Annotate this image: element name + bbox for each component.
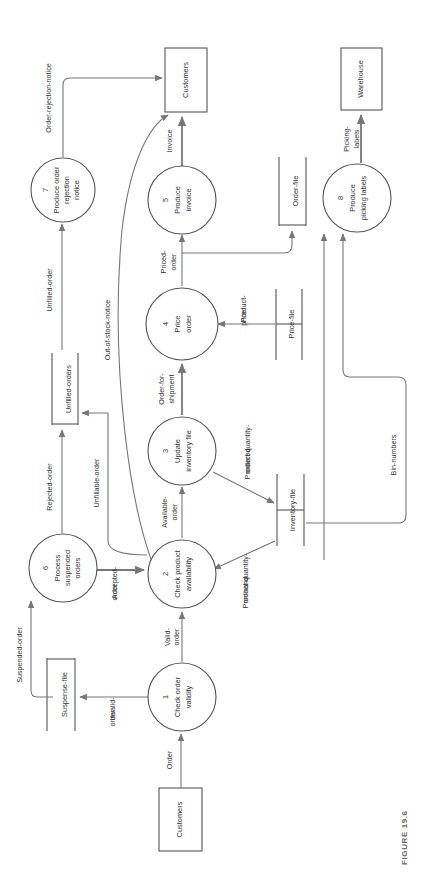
process-name-line2: suspended <box>63 550 72 586</box>
process-name-line2: rejection <box>62 176 71 204</box>
data-store-label: Price-file <box>287 310 296 339</box>
process-3: 3 Update inventory file <box>148 417 216 485</box>
flow-suspended-order <box>31 601 53 697</box>
flow-label-ofs-1: Order-for- <box>157 373 166 405</box>
process-7: 7 Produce order rejection notice <box>31 158 95 222</box>
flow-label-accepted-order-2: order <box>110 583 119 600</box>
diagram-canvas: Customers Warehouse Customers Suspense-f… <box>0 0 423 893</box>
flow-label-rejected-order: Rejected-order <box>45 463 54 511</box>
process-number: 5 <box>161 198 170 202</box>
data-store-order-file: Order-file <box>279 157 306 226</box>
external-entity-label: Customers <box>175 801 184 837</box>
flow-order-file-write <box>182 231 292 253</box>
process-name-line1: Check order <box>173 676 182 717</box>
flow-label-picking-labels-1: Picking- <box>342 126 351 152</box>
flow-label-invalid-order-2: order <box>108 709 117 726</box>
process-number: 4 <box>161 322 170 326</box>
process-name-line1: Produce <box>173 186 182 214</box>
process-name-line2: picking labels <box>359 176 368 221</box>
process-name-line2: invoice <box>184 188 193 211</box>
process-2: 2 Check product availability <box>148 540 216 608</box>
flow-label-suspended-order: Suspended-order <box>15 627 24 683</box>
flow-order-rejection-notice <box>63 78 162 157</box>
process-name-line2: inventory file <box>184 430 193 472</box>
process-name-line2: order <box>184 315 193 333</box>
process-number: 3 <box>161 449 170 453</box>
flow-label-bin-numbers: Bin-numbers <box>389 434 398 475</box>
process-5: 5 Produce invoice <box>148 166 216 234</box>
flow-label-pqord-2: ordered <box>243 449 252 474</box>
process-name-line3: notice <box>72 180 81 200</box>
flow-label-picking-labels-2: labels <box>352 129 361 148</box>
external-entity-label: Warehouse <box>356 60 365 98</box>
process-name-line2: availability <box>184 557 193 591</box>
data-store-label: Suspense-file <box>60 672 69 717</box>
flow-label-priced-order-2: order <box>169 253 178 270</box>
process-number: 2 <box>161 572 170 576</box>
process-name-line1: Produce order <box>52 166 61 213</box>
flow-label-order-rejection-notice: Order-rejection-notice <box>44 63 53 133</box>
external-entity-customers-bottom: Customers <box>159 788 202 851</box>
flow-label-available-order-2: order <box>170 503 179 520</box>
process-name-line1: Produce <box>348 184 357 212</box>
external-entity-warehouse: Warehouse <box>341 48 382 110</box>
process-number: 1 <box>161 695 170 699</box>
data-store-label: Inventory-file <box>288 489 297 531</box>
data-store-inventory-file: Inventory-file <box>277 474 304 546</box>
process-6: 6 Process suspended orders <box>29 534 97 602</box>
flow-label-valid-order-2: order <box>172 628 181 645</box>
process-4: 4 Price order <box>146 288 218 360</box>
process-1: 1 Check order validity <box>148 663 216 731</box>
process-name-line3: orders <box>73 557 82 578</box>
flow-label-order: Order <box>165 750 174 769</box>
data-store-price-file: Price-file <box>276 289 302 360</box>
flow-label-out-of-stock-notice: Out-of-stock-notice <box>103 300 112 361</box>
data-store-suspense-file: Suspense-file <box>47 658 75 731</box>
process-name-line1: Price <box>173 316 182 333</box>
data-store-label: Order-file <box>291 176 300 207</box>
process-name-line1: Process <box>53 554 62 581</box>
process-number: 7 <box>41 188 50 192</box>
process-8: 8 Produce picking labels <box>323 164 391 232</box>
process-number: 6 <box>41 566 50 570</box>
flow-label-product-price-2: price <box>239 310 248 326</box>
dfd-svg: Customers Warehouse Customers Suspense-f… <box>0 0 423 893</box>
process-name-line2: validity <box>184 685 193 708</box>
figure-caption: FIGURE 19.6 <box>400 810 409 865</box>
process-number: 8 <box>336 196 345 200</box>
flow-label-unfillable-order: Unfillable-order <box>92 458 101 507</box>
external-entity-customers-top: Customers <box>165 48 207 112</box>
process-name-line1: Update <box>173 439 182 463</box>
flow-label-unfilled-order: Unfilled-order <box>45 268 54 312</box>
flow-label-priced-order-1: Priced- <box>159 250 168 273</box>
flow-label-pqoh-2: on-hand <box>241 577 250 603</box>
flow-label-valid-order-1: Valid- <box>163 627 172 645</box>
flow-label-invoice: Invoice <box>165 130 174 153</box>
external-entity-label: Customers <box>181 62 190 98</box>
flow-label-available-order-1: Available- <box>160 496 169 528</box>
data-store-label: Unfilled-orders <box>64 365 73 413</box>
flow-bin-numbers <box>306 234 406 523</box>
data-store-unfilled-orders: Unfilled-orders <box>52 353 78 425</box>
flow-label-ofs-2: shipment <box>167 374 176 403</box>
process-name-line1: Check product <box>173 550 182 598</box>
